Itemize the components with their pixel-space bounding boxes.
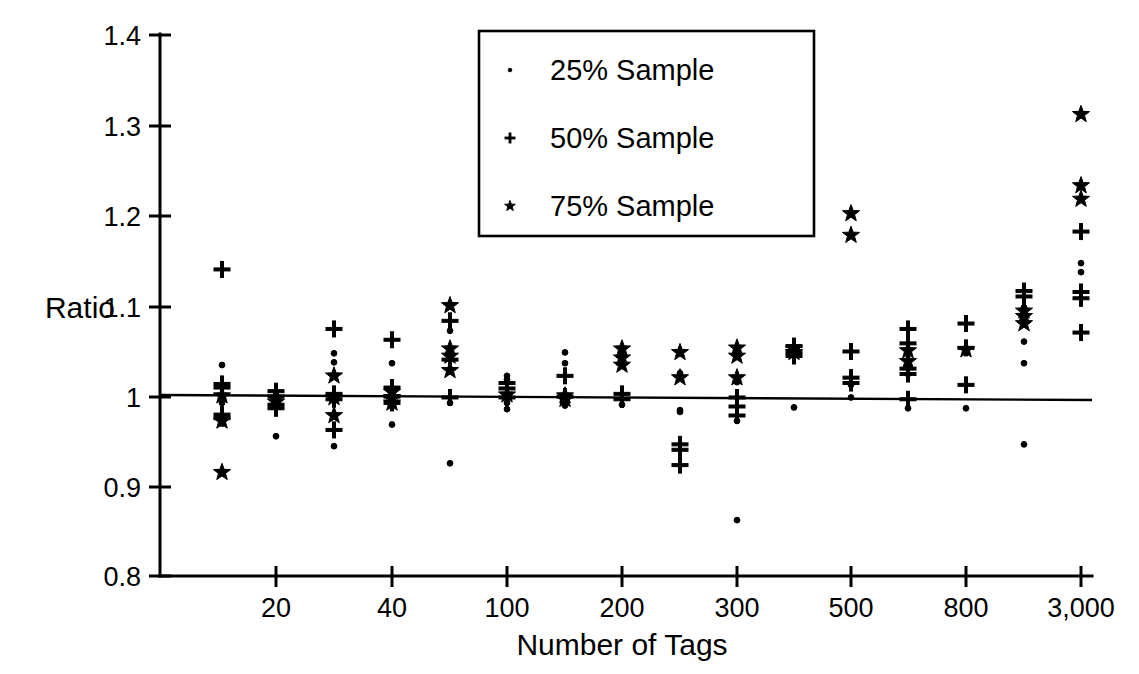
x-tick-label-800: 800 [943,593,988,623]
marker-dot [677,409,683,415]
marker-dot [331,350,337,356]
legend-label-75: 75% Sample [550,190,714,222]
y-tick-label-0-9: 0.9 [103,473,141,503]
y-axis-title: Ratio [45,291,115,324]
y-tick-label-1-3: 1.3 [103,112,141,142]
marker-dot [1021,441,1027,447]
x-tick-label-20: 20 [261,593,291,623]
marker-dot [389,422,395,428]
scatter-plot-figure: 1.4 1.3 1.2 1.1 1 0.9 0.8 Ratio 20 40 10… [0,0,1139,674]
marker-dot [848,395,854,401]
x-axis-title: Number of Tags [516,628,727,661]
x-tick-label-40: 40 [377,593,407,623]
marker-dot [331,443,337,449]
y-tick-label-0-8: 0.8 [103,562,141,592]
marker-dot [219,362,225,368]
marker-dot [791,404,797,410]
plot-canvas: 1.4 1.3 1.2 1.1 1 0.9 0.8 Ratio 20 40 10… [0,0,1139,674]
y-tick-label-1-4: 1.4 [103,21,141,51]
marker-dot [963,405,969,411]
marker-dot [1021,360,1027,366]
x-tick-label-200: 200 [599,593,644,623]
legend: 25% Sample 50% Sample 75% Sample [479,31,814,236]
marker-dot [562,360,568,366]
marker-dot [1078,269,1084,275]
x-tick-label-300: 300 [714,593,759,623]
marker-dot [562,349,568,355]
y-tick-label-1: 1 [126,383,141,413]
x-tick-label-500: 500 [828,593,873,623]
x-tick-label-100: 100 [484,593,529,623]
x-tick-label-3000: 3,000 [1047,593,1115,623]
marker-dot [734,517,740,523]
legend-label-50: 50% Sample [550,122,714,154]
marker-dot [1021,339,1027,345]
marker-dot [273,433,279,439]
marker-dot [331,359,337,365]
marker-dot [504,406,510,412]
marker-dot [389,360,395,366]
y-tick-label-1-2: 1.2 [103,202,141,232]
marker-dot [447,460,453,466]
legend-label-25: 25% Sample [550,54,714,86]
marker-dot [1078,260,1084,266]
marker-dot [508,68,512,72]
